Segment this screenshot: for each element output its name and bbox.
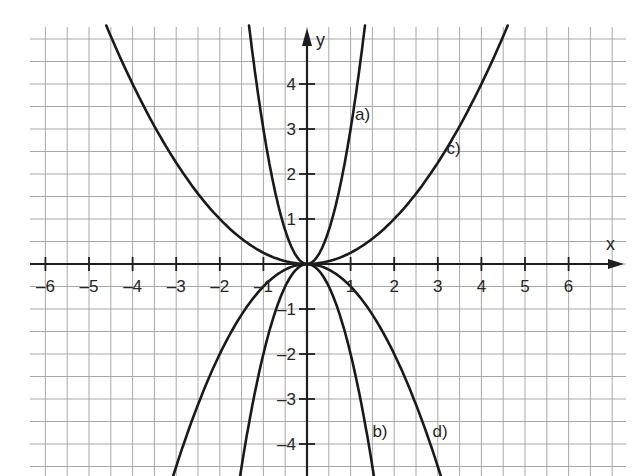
x-axis-arrow-icon: [608, 259, 624, 269]
curve-label-d: d): [433, 422, 448, 441]
y-tick-label: 2: [287, 165, 296, 184]
y-tick-label: 3: [287, 120, 296, 139]
curve-label-c: c): [447, 139, 461, 158]
y-tick-label: 1: [287, 210, 296, 229]
x-tick-label: –1: [254, 277, 273, 296]
x-tick-label: –4: [123, 277, 142, 296]
x-tick-label: 4: [477, 277, 486, 296]
x-tick-label: –3: [167, 277, 186, 296]
curve-labels: a)b)c)d): [355, 105, 461, 441]
y-tick-label: –2: [277, 345, 296, 364]
y-axis-arrow-icon: [302, 28, 312, 46]
x-tick-label: –6: [36, 277, 55, 296]
y-tick-label: –1: [277, 300, 296, 319]
x-tick-label: 2: [389, 277, 398, 296]
grid: [30, 27, 626, 476]
y-axis-label: y: [316, 30, 325, 50]
x-tick-label: –5: [80, 277, 99, 296]
axes: x y: [30, 28, 624, 476]
y-tick-label: –3: [277, 390, 296, 409]
y-tick-label: 4: [287, 75, 296, 94]
x-tick-label: 6: [564, 277, 573, 296]
x-tick-label: 1: [346, 277, 355, 296]
curve-label-b: b): [372, 422, 387, 441]
x-tick-label: –2: [210, 277, 229, 296]
x-axis-label: x: [606, 234, 615, 254]
parabola-chart: x y –6–5–4–3–2–1123456–4–3–2–11234 a)b)c…: [0, 0, 638, 476]
curve-label-a: a): [355, 105, 370, 124]
y-tick-label: –4: [277, 435, 296, 454]
x-tick-label: 3: [433, 277, 442, 296]
x-tick-label: 5: [520, 277, 529, 296]
